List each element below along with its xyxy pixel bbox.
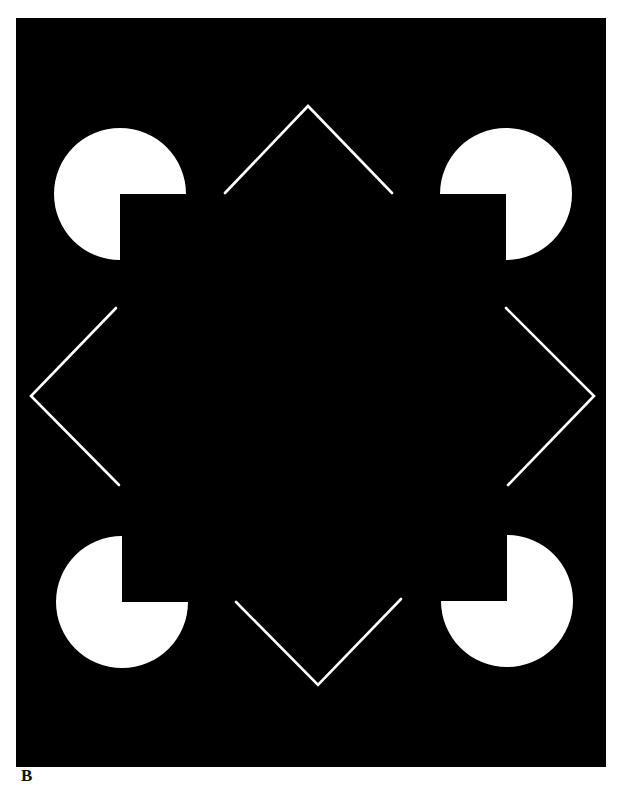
panel-label: B — [21, 766, 32, 786]
figure-canvas — [0, 0, 619, 788]
illusory-contour-figure: B — [0, 0, 619, 788]
